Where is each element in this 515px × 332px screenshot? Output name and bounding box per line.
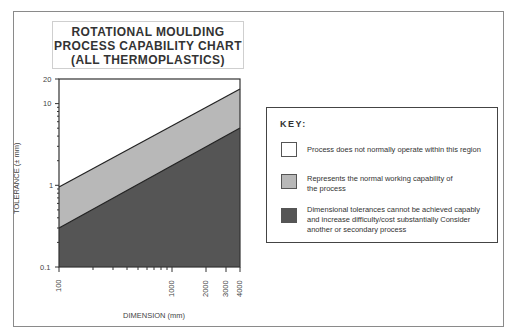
legend-label-not-operating: Process does not normally operate within… [307, 145, 492, 155]
x-tick-4000: 4000 [235, 280, 244, 297]
legend-swatch-dark-grey [281, 208, 297, 223]
y-tick-10: 10 [43, 99, 51, 108]
legend-item-normal-capability: Represents the normal working capability… [281, 174, 457, 194]
x-axis-title: DIMENSION (mm) [123, 311, 185, 320]
y-axis-title: TOLERANCE (± mm) [12, 143, 21, 214]
x-tick-1000: 1000 [167, 280, 176, 297]
legend-swatch-light-grey [281, 174, 297, 189]
legend-label-not-achievable: Dimensional tolerances cannot be achieve… [307, 205, 492, 235]
x-tick-100: 100 [54, 279, 63, 292]
legend-label-normal-capability: Represents the normal working capability… [307, 174, 457, 194]
y-tick-0-1: 0.1 [40, 263, 50, 272]
legend-title: KEY: [280, 119, 307, 129]
x-axis-ticks [59, 267, 240, 272]
y-tick-20: 20 [43, 75, 51, 84]
legend-item-not-achievable: Dimensional tolerances cannot be achieve… [281, 208, 492, 235]
y-tick-1: 1 [49, 181, 53, 190]
x-tick-2000: 2000 [201, 280, 210, 297]
x-tick-3000: 3000 [221, 280, 230, 297]
legend-box: KEY: Process does not normally operate w… [266, 107, 498, 243]
legend-item-not-operating: Process does not normally operate within… [281, 142, 492, 157]
legend-swatch-white [281, 142, 297, 157]
